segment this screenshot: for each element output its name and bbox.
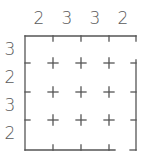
- cell-r1-c2[interactable]: [53, 36, 81, 64]
- cell-r2-c3[interactable]: [81, 64, 109, 92]
- cell-r4-c2[interactable]: [53, 120, 81, 148]
- cell-r3-c2[interactable]: [53, 92, 81, 120]
- cell-r2-c2[interactable]: [53, 64, 81, 92]
- cell-r4-c4[interactable]: [109, 120, 137, 148]
- cell-r1-c3[interactable]: [81, 36, 109, 64]
- cell-r1-c4[interactable]: [109, 36, 137, 64]
- cell-r1-c1[interactable]: [25, 36, 53, 64]
- cell-r4-c3[interactable]: [81, 120, 109, 148]
- cell-r3-c4[interactable]: [109, 92, 137, 120]
- cell-r3-c1[interactable]: [25, 92, 53, 120]
- cell-r3-c3[interactable]: [81, 92, 109, 120]
- cell-r2-c4[interactable]: [109, 64, 137, 92]
- cell-r4-c1[interactable]: [25, 120, 53, 148]
- cell-r2-c1[interactable]: [25, 64, 53, 92]
